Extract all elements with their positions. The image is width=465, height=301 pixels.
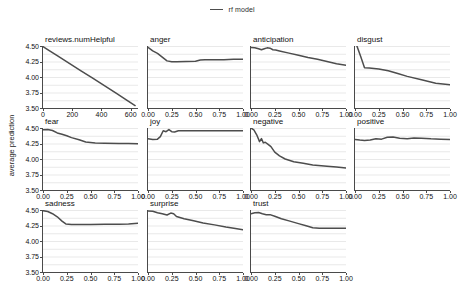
series-line: [355, 137, 450, 140]
panel-title: disgust: [357, 35, 382, 45]
x-tick-label: 0.25: [263, 275, 287, 282]
x-tick-label: 0.50: [391, 193, 415, 200]
x-tick-label: 0.50: [287, 275, 311, 282]
x-tick-mark: [403, 109, 404, 111]
panel-title: sadness: [45, 199, 75, 209]
plot-area: [251, 128, 346, 190]
series-line: [148, 211, 243, 230]
x-tick-mark: [251, 273, 252, 275]
plot-area: [355, 46, 450, 108]
x-tick-mark: [379, 191, 380, 193]
x-tick-label: 0.75: [207, 275, 231, 282]
x-tick-mark: [196, 273, 197, 275]
panel-positive: positive0.000.250.500.751.00: [355, 117, 450, 202]
x-tick-label: 0.50: [79, 275, 103, 282]
y-axis-spine: [250, 128, 251, 190]
x-tick-mark: [450, 109, 451, 111]
x-tick-label: 0.00: [239, 275, 263, 282]
x-axis-spine: [42, 108, 138, 109]
legend-line-swatch: [210, 9, 223, 10]
plot-area: [251, 210, 346, 272]
y-tick-mark: [40, 93, 42, 94]
plot-area: [43, 210, 138, 272]
x-tick-mark: [299, 191, 300, 193]
x-tick-mark: [219, 109, 220, 111]
y-axis-spine: [42, 210, 43, 272]
legend-label: rf model: [228, 6, 254, 13]
panel-anticipation: anticipation0.000.250.500.751.00: [251, 35, 346, 120]
y-tick-label: 3.75: [11, 89, 39, 96]
x-tick-mark: [43, 273, 44, 275]
y-tick-mark: [40, 175, 42, 176]
panel-negative: negative0.000.250.500.751.00: [251, 117, 346, 202]
x-tick-mark: [72, 109, 73, 111]
x-tick-mark: [426, 109, 427, 111]
y-tick-mark: [40, 62, 42, 63]
y-tick-label: 4.50: [11, 43, 39, 50]
x-tick-label: 0.75: [414, 193, 438, 200]
panel-surprise: surprise0.000.250.500.751.00: [148, 199, 243, 284]
y-tick-label: 3.75: [11, 253, 39, 260]
panel-title: anger: [150, 35, 170, 45]
y-tick-mark: [40, 257, 42, 258]
y-tick-label: 4.50: [11, 125, 39, 132]
x-tick-mark: [91, 191, 92, 193]
series-line: [251, 128, 346, 168]
y-tick-mark: [40, 226, 42, 227]
series-line: [43, 47, 135, 106]
x-tick-mark: [275, 273, 276, 275]
x-tick-mark: [67, 191, 68, 193]
x-tick-mark: [114, 273, 115, 275]
panel-sadness: sadness3.503.754.004.254.500.000.250.500…: [43, 199, 138, 284]
x-tick-mark: [275, 191, 276, 193]
series-line: [251, 48, 346, 66]
x-tick-mark: [426, 191, 427, 193]
panel-title: reviews.numHelpful: [45, 35, 115, 45]
x-tick-mark: [114, 191, 115, 193]
y-axis-spine: [42, 46, 43, 108]
panel-title: joy: [150, 117, 160, 127]
y-tick-label: 4.25: [11, 58, 39, 65]
x-tick-mark: [196, 109, 197, 111]
x-tick-label: 1.00: [438, 193, 462, 200]
y-tick-mark: [40, 159, 42, 160]
x-tick-mark: [148, 191, 149, 193]
y-tick-label: 4.25: [11, 222, 39, 229]
x-tick-mark: [355, 109, 356, 111]
x-tick-mark: [148, 109, 149, 111]
x-tick-mark: [219, 191, 220, 193]
plot-area: [43, 46, 138, 108]
x-tick-mark: [322, 109, 323, 111]
series-line: [148, 130, 243, 140]
y-tick-label: 4.00: [11, 74, 39, 81]
x-tick-label: 0.75: [102, 275, 126, 282]
panel-title: positive: [357, 117, 384, 127]
panel-grid: reviews.numHelpful3.503.754.004.254.5002…: [0, 18, 465, 301]
x-tick-label: 0.00: [343, 193, 367, 200]
panel-disgust: disgust0.000.250.500.751.00: [355, 35, 450, 120]
y-tick-label: 3.75: [11, 171, 39, 178]
series-line: [355, 46, 450, 85]
panel-title: negative: [253, 117, 283, 127]
panel-trust: trust0.000.250.500.751.00: [251, 199, 346, 284]
x-tick-mark: [148, 273, 149, 275]
plot-area: [355, 128, 450, 190]
x-tick-label: 1.00: [334, 275, 358, 282]
x-tick-mark: [172, 273, 173, 275]
panel-title: surprise: [150, 199, 178, 209]
y-tick-mark: [40, 128, 42, 129]
y-tick-mark: [40, 46, 42, 47]
x-tick-mark: [219, 273, 220, 275]
y-axis-spine: [147, 210, 148, 272]
series-line: [43, 130, 138, 144]
panel-joy: joy0.000.250.500.751.00: [148, 117, 243, 202]
partial-dependence-plot-figure: rf model average prediction reviews.numH…: [0, 0, 465, 301]
y-tick-label: 4.25: [11, 140, 39, 147]
plot-area: [148, 128, 243, 190]
panel-reviews-numhelpful: reviews.numHelpful3.503.754.004.254.5002…: [43, 35, 138, 120]
x-tick-mark: [322, 191, 323, 193]
panel-anger: anger0.000.250.500.751.00: [148, 35, 243, 120]
y-tick-mark: [40, 241, 42, 242]
x-tick-mark: [299, 273, 300, 275]
x-tick-mark: [101, 109, 102, 111]
